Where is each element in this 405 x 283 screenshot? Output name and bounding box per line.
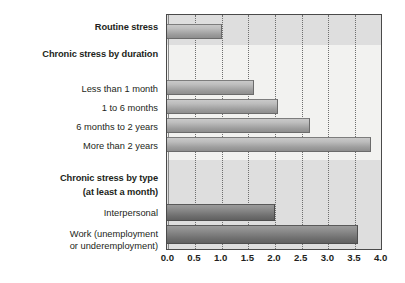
bar-more-than-2-years bbox=[167, 137, 371, 152]
bar-1-to-6-months bbox=[167, 99, 278, 114]
stress-bar-chart: Routine stress Chronic stress by duratio… bbox=[0, 0, 405, 283]
label-1-to-6-months: 1 to 6 months bbox=[102, 103, 158, 114]
label-less-than-1-month: Less than 1 month bbox=[82, 84, 159, 95]
x-tick-label-2.0: 2.0 bbox=[267, 252, 280, 263]
plot-area bbox=[166, 14, 382, 250]
label-routine-stress: Routine stress bbox=[95, 22, 158, 33]
bar-routine-stress bbox=[167, 24, 222, 39]
x-tick-label-4.0: 4.0 bbox=[374, 252, 387, 263]
gridline-3.5 bbox=[355, 15, 357, 249]
label-work-line2: or underemployment) bbox=[70, 241, 158, 252]
bar-6-months-to-2-years bbox=[167, 118, 310, 133]
gridline-3.0 bbox=[328, 15, 330, 249]
label-interpersonal: Interpersonal bbox=[104, 208, 158, 219]
x-tick-label-0.0: 0.0 bbox=[161, 252, 174, 263]
x-tick-label-2.5: 2.5 bbox=[294, 252, 307, 263]
label-more-than-2-years: More than 2 years bbox=[83, 141, 158, 152]
x-axis: 0.00.51.01.52.02.53.03.54.0 bbox=[166, 250, 382, 270]
x-tick-label-3.0: 3.0 bbox=[321, 252, 334, 263]
label-chronic-by-duration: Chronic stress by duration bbox=[42, 49, 158, 60]
x-tick-label-1.5: 1.5 bbox=[241, 252, 254, 263]
x-tick-label-1.0: 1.0 bbox=[214, 252, 227, 263]
bar-work-unemployment-or-underemployment bbox=[167, 225, 358, 244]
label-work-line1: Work (unemployment bbox=[70, 229, 158, 240]
x-tick-label-0.5: 0.5 bbox=[187, 252, 200, 263]
label-chronic-by-type-line1: Chronic stress by type bbox=[60, 173, 158, 184]
category-label-column: Routine stress Chronic stress by duratio… bbox=[0, 14, 163, 250]
x-tick-label-3.5: 3.5 bbox=[347, 252, 360, 263]
label-chronic-by-type-line2: (at least a month) bbox=[83, 187, 158, 198]
bar-interpersonal bbox=[167, 204, 275, 221]
label-6-months-to-2-years: 6 months to 2 years bbox=[76, 122, 158, 133]
bar-less-than-1-month bbox=[167, 80, 254, 95]
